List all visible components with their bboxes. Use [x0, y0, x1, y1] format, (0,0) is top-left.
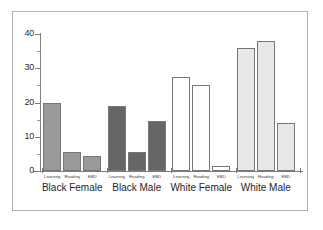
x-axis-baseline [33, 171, 303, 172]
y-axis-tick-label: 20 [18, 97, 34, 107]
sub-label-ebd: EBD [208, 174, 234, 180]
y-axis-tick-label: 0 [18, 165, 34, 175]
group-label-white-female: White Female [169, 182, 234, 193]
group-label-black-female: Black Female [40, 182, 105, 193]
y-axis-tick-label: 40 [18, 28, 34, 38]
y-axis-tick [35, 171, 41, 172]
bar-white-male-learning [237, 48, 255, 171]
bar-white-female-ebd [212, 166, 230, 171]
group-separator-tick [236, 168, 237, 173]
bar-black-male-learning [108, 106, 126, 171]
bar-black-male-ebd [148, 121, 166, 171]
bar-black-female-reading [63, 152, 81, 171]
bar-white-female-reading [192, 85, 210, 171]
y-axis-tick-label: 10 [18, 131, 34, 141]
bar-white-male-ebd [277, 123, 295, 171]
chart-figure: 010203040 LearningReadingEBDLearningRead… [0, 0, 323, 230]
sub-label-ebd: EBD [144, 174, 170, 180]
group-separator-tick [107, 168, 108, 173]
group-separator-tick [42, 168, 43, 173]
sub-label-ebd: EBD [273, 174, 299, 180]
bar-black-female-learning [43, 103, 61, 172]
group-separator-tick [300, 168, 301, 173]
group-label-white-male: White Male [234, 182, 299, 193]
bars-layer [40, 34, 298, 171]
sub-label-ebd: EBD [79, 174, 105, 180]
y-axis-tick-label: 30 [18, 62, 34, 72]
bar-white-male-reading [257, 41, 275, 171]
group-separator-tick [171, 168, 172, 173]
bar-black-female-ebd [83, 156, 101, 171]
bar-white-female-learning [172, 77, 190, 171]
bar-black-male-reading [128, 152, 146, 171]
group-label-black-male: Black Male [105, 182, 170, 193]
